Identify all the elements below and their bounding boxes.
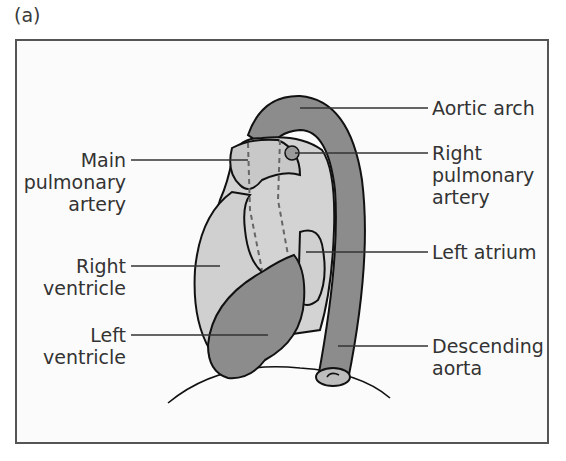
label-aortic-arch: Aortic arch [432, 97, 535, 119]
heart-diagram [0, 0, 566, 461]
aorta-end [316, 368, 350, 386]
label-left-ventricle: Left ventricle [43, 324, 126, 368]
diaphragm-curve [168, 367, 390, 403]
label-descending-aorta: Descending aorta [432, 335, 544, 379]
label-right-ventricle: Right ventricle [43, 255, 126, 299]
label-right-pulmonary-artery: Right pulmonary artery [432, 142, 534, 208]
label-left-atrium: Left atrium [432, 241, 537, 263]
label-main-pulmonary-artery: Main pulmonary artery [24, 149, 126, 215]
